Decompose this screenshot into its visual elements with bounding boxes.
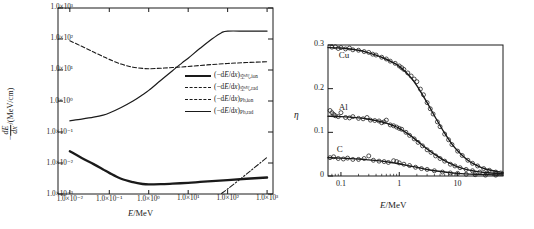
legend-row-pb-ion: (−dE/dx)Pb,ion xyxy=(183,94,283,106)
left-ytick-2: 1.0×10¹ xyxy=(29,65,73,73)
legend-0-prefix: (−d xyxy=(214,70,224,79)
curve-tag-c: C xyxy=(337,144,343,154)
left-yaxis-units: /(MeV/cm) xyxy=(6,88,15,125)
left-ytick-0: 1.0×10³ xyxy=(29,3,73,11)
legend-swatch-thin-solid xyxy=(185,111,211,115)
left-yaxis-fraction: dEdx xyxy=(2,124,20,135)
left-ytick-1: 1.0×10² xyxy=(29,34,73,42)
legend-row-air-ion: (−dE/dx)空气,ion xyxy=(183,70,283,82)
left-xaxis-title-unit: /MeV xyxy=(133,208,153,218)
legend-3-subscript: Pb,rad xyxy=(240,109,253,115)
left-yaxis-title: −dEdx/(MeV/cm) xyxy=(2,82,20,146)
left-ytick-4: 1.0×10⁻¹ xyxy=(29,127,73,136)
right-plot-canvas xyxy=(288,0,534,229)
right-ytick-0: 0.3 xyxy=(298,39,324,48)
right-yaxis-title: η xyxy=(294,110,299,120)
legend-row-pb-rad: (−dE/dx)Pb,rad xyxy=(183,106,283,118)
left-ytick-6: 1.0×10⁻³ xyxy=(29,189,73,198)
right-ytick-2: 0.1 xyxy=(298,126,324,135)
right-xtick-1: 1 xyxy=(384,179,414,188)
curve-tag-al: Al xyxy=(339,102,348,112)
left-chart-panel: 1.0×10⁻² 1.0×10⁻¹ 1.0×10⁰ 1.0×10¹ 1.0×10… xyxy=(0,0,288,229)
right-chart-panel: 0.1 1 10 0.3 0.2 0.1 0 E/MeV η Cu Al C xyxy=(288,0,534,229)
legend-label-air-rad: (−dE/dx)空气,rad xyxy=(214,82,258,91)
legend-row-air-rad: (−dE/dx)空气,rad xyxy=(183,82,283,94)
left-yaxis-minus: − xyxy=(6,135,15,140)
legend-3-prefix: (−d xyxy=(214,106,224,115)
legend-swatch-dashed xyxy=(185,99,211,103)
figure-container: 1.0×10⁻² 1.0×10⁻¹ 1.0×10⁰ 1.0×10¹ 1.0×10… xyxy=(0,0,534,229)
right-xaxis-title: E/MeV xyxy=(380,200,407,210)
left-yaxis-denominator: dx xyxy=(12,124,20,135)
legend-label-pb-ion: (−dE/dx)Pb,ion xyxy=(214,94,253,103)
right-plot-frame xyxy=(328,45,503,176)
right-ytick-1: 0.2 xyxy=(298,83,324,92)
right-ytick-3: 0 xyxy=(298,170,324,179)
right-xtick-0: 0.1 xyxy=(326,179,356,188)
left-xtick-5: 1.0×10³ xyxy=(244,194,290,202)
left-ytick-5: 1.0×10⁻² xyxy=(29,158,73,167)
legend-0-subscript: 空气,ion xyxy=(240,73,258,79)
legend-swatch-thick-solid xyxy=(185,75,211,80)
legend-label-pb-rad: (−dE/dx)Pb,rad xyxy=(214,106,253,115)
left-ytick-3: 1.0×10⁰ xyxy=(29,96,73,105)
legend-1-subscript: 空气,rad xyxy=(240,85,258,91)
legend-swatch-dash-dot xyxy=(185,87,211,91)
legend-2-prefix: (−d xyxy=(214,94,224,103)
legend-label-air-ion: (−dE/dx)空气,ion xyxy=(214,70,258,79)
legend-2-subscript: Pb,ion xyxy=(240,97,253,103)
right-xtick-2: 10 xyxy=(443,179,473,188)
left-chart-legend: (−dE/dx)空气,ion (−dE/dx)空气,rad (−dE/dx)Pb… xyxy=(183,70,283,124)
curve-tag-cu: Cu xyxy=(339,50,350,60)
right-xaxis-title-unit: /MeV xyxy=(386,200,407,210)
legend-1-prefix: (−d xyxy=(214,82,224,91)
left-xaxis-title: E/MeV xyxy=(128,208,153,218)
